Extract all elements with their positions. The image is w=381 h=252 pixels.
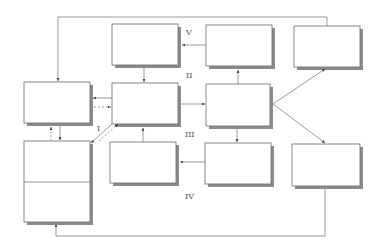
label-stage-ii: II: [186, 71, 192, 80]
box-top-center: [112, 24, 181, 68]
label-stage-i: I: [97, 124, 100, 133]
box-top-middle-right: [206, 25, 275, 69]
label-stage-iii: III: [185, 130, 194, 139]
top-feedback-loop: [58, 17, 327, 81]
box-middle-right: [206, 84, 273, 129]
box-bottom-center: [110, 142, 179, 186]
arrow-middle-right-to-top-right: [273, 69, 325, 104]
arrow-center-to-left-bottom: [91, 124, 112, 143]
arrow-left-bottom-to-center: [99, 124, 118, 141]
label-stage-iv: IV: [185, 192, 194, 201]
box-center: [112, 83, 181, 127]
box-left-bottom: [24, 141, 93, 225]
box-top-right: [294, 26, 363, 70]
arrow-middle-right-to-bottom-right: [273, 104, 325, 143]
process-diagram: V II III IV I: [0, 0, 381, 252]
label-stage-v: V: [185, 28, 192, 37]
box-bottom-right: [292, 144, 363, 189]
box-bottom-middle-right: [205, 143, 274, 187]
box-left-middle: [24, 82, 93, 126]
